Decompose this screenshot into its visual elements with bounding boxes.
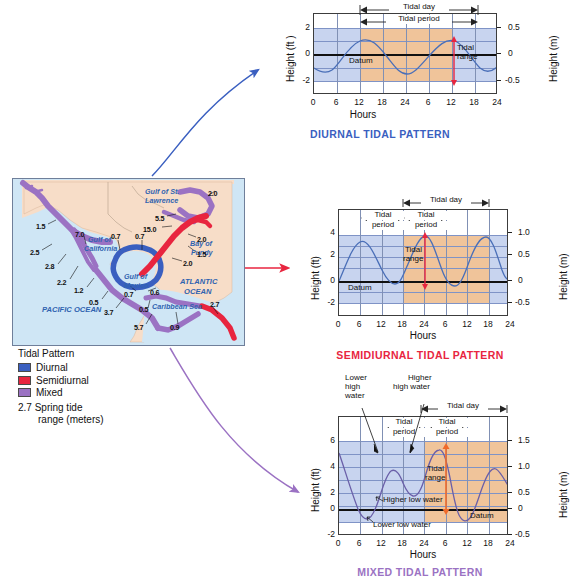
- mixed-xtick: 12: [458, 538, 476, 548]
- legend-spring-tide-note: 2.7 Spring tide range (meters): [18, 402, 188, 425]
- figure-canvas: PACIFIC OCEAN ATLANTIC OCEAN Gulf of St.…: [0, 0, 586, 583]
- map-ocean-label-atlantic: ATLANTIC: [180, 278, 217, 286]
- semidiurnal-ytick-right: 0.5: [518, 249, 542, 259]
- diurnal-right-tickmark: [497, 27, 501, 28]
- legend-label-diurnal: Diurnal: [36, 362, 68, 373]
- semidiurnal-tidal-period-label-1: Tidal: [362, 211, 404, 220]
- diurnal-right-tickmark: [497, 80, 501, 81]
- map-sea-label-gulf-of-st-lawrence: Gulf of St.: [145, 188, 179, 196]
- diurnal-xtick: 24: [488, 97, 506, 107]
- chart-diurnal: Datum Tidal range Tidal day Tidal period…: [290, 4, 586, 150]
- semidiurnal-ytick-left: 4: [320, 227, 335, 237]
- semidiurnal-tidal-period-label-2b: period: [405, 221, 447, 230]
- mixed-xtick: 18: [393, 538, 411, 548]
- diurnal-tidal-period-label: Tidal period: [386, 15, 452, 24]
- diurnal-tidal-range-label-2: range: [457, 53, 477, 62]
- spring-tide-value: 0.7: [124, 290, 133, 299]
- semidiurnal-tidal-day-label: Tidal day: [421, 196, 471, 205]
- spring-tide-value: 0.5: [139, 305, 148, 314]
- mixed-right-tickmark: [508, 534, 512, 535]
- spring-tide-value: 0.7: [111, 232, 120, 241]
- spring-tide-value: 2.5: [30, 248, 39, 257]
- spring-tide-value: 2.2: [57, 278, 66, 287]
- tidal-pattern-map: PACIFIC OCEAN ATLANTIC OCEAN Gulf of St.…: [12, 178, 245, 346]
- map-sea-label-gulf-of-mexico: Gulf of: [124, 273, 147, 281]
- spring-tide-value: 2.0: [208, 189, 217, 198]
- mixed-low-water-leaders: [359, 491, 419, 523]
- mixed-xtick: 12: [372, 538, 390, 548]
- semidiurnal-right-tickmark: [508, 280, 512, 281]
- semidiurnal-ylabel-right: Height (m): [558, 253, 569, 300]
- semidiurnal-ytick-left: 2: [320, 249, 335, 259]
- map-legend: Tidal Pattern Diurnal Semidiurnal Mixed …: [18, 348, 188, 425]
- map-sea-label-gulf-of-mexico-2: Mexico: [124, 282, 148, 290]
- semidiurnal-ytick-right: 0: [518, 275, 542, 285]
- legend-label-mixed: Mixed: [36, 387, 63, 398]
- spring-tide-value: 1.5: [197, 250, 206, 259]
- spring-tide-value: 15.0: [143, 225, 156, 234]
- diurnal-ylabel-right: Height (m): [548, 35, 559, 82]
- spring-tide-value: 2.0: [197, 235, 206, 244]
- mixed-higher-high-water-label: Higher: [408, 373, 432, 382]
- semidiurnal-chart-title: SEMIDIURNAL TIDAL PATTERN: [272, 349, 568, 361]
- spring-tide-value: 7.0: [75, 230, 84, 239]
- semidiurnal-xtick: 12: [458, 319, 476, 329]
- mixed-lower-high-water-label-3: water: [345, 391, 365, 400]
- semidiurnal-ylabel-left: Height (ft): [310, 256, 321, 300]
- mixed-datum-label: Datum: [470, 512, 494, 521]
- diurnal-xtick: 6: [419, 97, 437, 107]
- legend-item-diurnal: Diurnal: [18, 362, 188, 373]
- diurnal-xtick: 18: [373, 97, 391, 107]
- spring-tide-value: 0.6: [150, 288, 159, 297]
- mixed-xtick: 24: [501, 538, 519, 548]
- spring-tide-value: 1.2: [74, 286, 83, 295]
- mixed-right-tickmark: [508, 508, 512, 509]
- mixed-xtick: 0: [329, 538, 347, 548]
- semidiurnal-tidal-period-label-2: Tidal: [405, 211, 447, 220]
- semidiurnal-xtick: 18: [393, 319, 411, 329]
- spring-tide-value: 2.0: [183, 259, 192, 268]
- mixed-ytick-right: 1.5: [518, 435, 542, 445]
- legend-title: Tidal Pattern: [18, 348, 188, 359]
- spring-tide-value: 0.9: [170, 323, 179, 332]
- mixed-lower-high-water-label-2: high: [345, 382, 360, 391]
- semidiurnal-plot-area: Datum Tidal range Tidal period Tidal per…: [338, 209, 508, 316]
- map-sea-label-gulf-of-california: Gulf of: [88, 236, 111, 244]
- semidiurnal-right-tickmark: [508, 254, 512, 255]
- legend-swatch-semidiurnal-icon: [18, 376, 31, 385]
- mixed-higher-high-water-label-2: high water: [393, 382, 430, 391]
- mixed-right-tickmark: [508, 466, 512, 467]
- mixed-xtick: 6: [436, 538, 454, 548]
- legend-swatch-mixed-icon: [18, 388, 31, 397]
- spring-tide-value: 3.7: [104, 308, 113, 317]
- mixed-ytick-left: 2: [320, 487, 335, 497]
- semidiurnal-xtick: 12: [372, 319, 390, 329]
- legend-swatch-diurnal-icon: [18, 363, 31, 372]
- mixed-right-tickmark: [508, 440, 512, 441]
- semidiurnal-xtick: 6: [436, 319, 454, 329]
- semidiurnal-xtick: 24: [501, 319, 519, 329]
- mixed-ylabel-right: Height (m): [558, 471, 569, 518]
- mixed-lower-high-water-label: Lower: [345, 373, 367, 382]
- semidiurnal-ytick-right: -0.5: [515, 297, 542, 307]
- mixed-ytick-left: 0: [320, 503, 335, 513]
- spring-tide-value: 5.7: [134, 323, 143, 332]
- spring-tide-value: 5.5: [155, 214, 164, 223]
- semidiurnal-ytick-left: 0: [320, 275, 335, 285]
- diurnal-xtick: 6: [327, 97, 345, 107]
- diurnal-xtick: 12: [442, 97, 460, 107]
- mixed-ytick-right: -0.5: [515, 529, 542, 539]
- diurnal-ytick-right: -0.5: [505, 75, 530, 85]
- mixed-xlabel: Hours: [275, 549, 571, 560]
- legend-item-mixed: Mixed: [18, 387, 188, 398]
- spring-tide-value: 2.7: [210, 300, 219, 309]
- legend-spring-tide-line1: Spring tide: [35, 402, 83, 413]
- legend-label-semidiurnal: Semidiurnal: [36, 375, 89, 386]
- spring-tide-value: 0.5: [89, 298, 98, 307]
- mixed-ytick-left: 4: [320, 461, 335, 471]
- spring-tide-value: 2.8: [45, 262, 54, 271]
- diurnal-xtick: 18: [465, 97, 483, 107]
- mixed-xtick: 6: [350, 538, 368, 548]
- map-ocean-label-atlantic-2: OCEAN: [184, 288, 211, 296]
- semidiurnal-datum-label: Datum: [348, 284, 372, 293]
